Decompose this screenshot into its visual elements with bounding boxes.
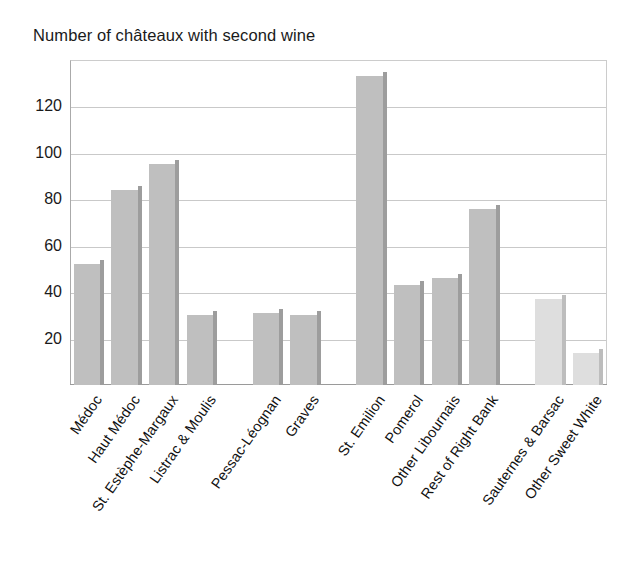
bar-fill: [111, 190, 137, 385]
bar-pomerol: [394, 285, 424, 385]
bar-pessac-l-ognan: [253, 313, 283, 385]
bar-listrac-moulis: [187, 315, 217, 385]
bar-st-est-phe-margaux: [149, 164, 179, 385]
bar-shadow-edge: [279, 309, 283, 385]
bar-sauternes-barsac: [535, 299, 565, 385]
bar-shadow-edge: [420, 281, 424, 385]
x-label-5: Graves: [282, 392, 322, 440]
y-tick-label-60: 60: [44, 237, 62, 255]
y-tick-label-80: 80: [44, 190, 62, 208]
bar-fill: [187, 315, 213, 385]
bar-fill: [74, 264, 100, 385]
bar-fill: [573, 353, 599, 386]
x-label-0: Médoc: [67, 392, 105, 437]
y-axis-tick-labels: 20406080100120: [0, 0, 62, 587]
bar-fill: [432, 278, 458, 385]
x-label-4: Pessac-Léognan: [208, 392, 284, 491]
bar-m-doc: [74, 264, 104, 385]
bar-shadow-edge: [213, 311, 217, 385]
bar-fill: [356, 76, 382, 385]
bars-layer: [70, 60, 607, 385]
bar-shadow-edge: [175, 160, 179, 385]
bar-fill: [394, 285, 420, 385]
bar-shadow-edge: [458, 274, 462, 385]
bar-fill: [469, 209, 495, 385]
y-tick-label-40: 40: [44, 283, 62, 301]
bar-fill: [290, 315, 316, 385]
y-tick-label-100: 100: [35, 144, 62, 162]
bar-rest-of-right-bank: [469, 209, 499, 385]
chart-title: Number of châteaux with second wine: [33, 26, 315, 45]
bar-haut-m-doc: [111, 190, 141, 385]
bar-fill: [253, 313, 279, 385]
bar-other-libournais: [432, 278, 462, 385]
bar-shadow-edge: [317, 311, 321, 385]
x-axis-category-labels: MédocHaut MédocSt. Estèphe-MargauxListra…: [70, 388, 607, 587]
y-tick-label-120: 120: [35, 97, 62, 115]
bar-st-emilion: [356, 76, 386, 385]
bar-graves: [290, 315, 320, 385]
bar-chart: Number of châteaux with second wine 2040…: [0, 0, 629, 587]
bar-shadow-edge: [496, 205, 500, 385]
bar-fill: [535, 299, 561, 385]
bar-shadow-edge: [100, 260, 104, 385]
y-tick-label-20: 20: [44, 330, 62, 348]
bar-shadow-edge: [599, 349, 603, 386]
bar-fill: [149, 164, 175, 385]
bar-shadow-edge: [138, 186, 142, 385]
bar-shadow-edge: [383, 72, 387, 385]
bar-shadow-edge: [562, 295, 566, 385]
bar-other-sweet-white: [573, 353, 603, 386]
x-label-6: St. Emilion: [335, 392, 388, 459]
